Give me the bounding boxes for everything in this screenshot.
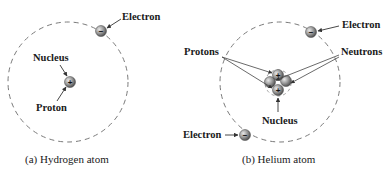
helium-electron-bottom-label: Electron [183,129,221,140]
helium-electron-top-label: Electron [342,19,380,30]
neutrons-pointer-arrow-right [291,57,339,83]
helium-neutrons-label: Neutrons [341,46,382,57]
protons-pointer-arrow-bottom [222,57,272,88]
nucleus-pointer-arrow [60,65,67,76]
electron-sign: − [243,131,248,140]
helium-atom: + + − Electron − Electron Protons Neutro… [183,19,382,166]
proton-pointer-arrow [57,87,66,101]
helium-nucleus-label: Nucleus [262,115,298,126]
hydrogen-electron-label: Electron [122,11,160,22]
proton-sign: + [276,86,281,95]
electron-top-pointer-arrow [318,26,339,31]
helium-caption: (b) Helium atom [242,153,316,166]
electron-sign: − [309,28,314,37]
helium-electron-top: − [306,27,317,38]
hydrogen-proton: + [65,77,76,88]
hydrogen-caption: (a) Hydrogen atom [25,153,109,166]
electron-pointer-arrow [107,19,121,28]
proton-sign: + [68,78,73,87]
protons-pointer-arrow-top [222,57,272,73]
hydrogen-proton-label: Proton [36,102,67,113]
helium-proton-bottom: + [273,85,284,96]
hydrogen-atom: − Electron + Nucleus Proton (a) Hydrogen… [8,11,160,166]
electron-sign: − [99,27,104,36]
atom-diagram: − Electron + Nucleus Proton (a) Hydrogen… [0,0,390,174]
helium-protons-label: Protons [184,46,219,57]
neutrons-pointer-arrow-left [276,55,339,80]
hydrogen-electron: − [96,26,107,37]
hydrogen-nucleus-label: Nucleus [33,52,69,63]
helium-electron-bottom: − [240,130,251,141]
